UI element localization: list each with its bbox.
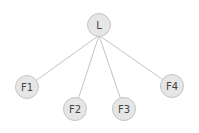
- edge-l-f1: [27, 35, 99, 87]
- node-f1-label: F1: [21, 82, 33, 93]
- node-f2: F2: [64, 98, 87, 121]
- node-f1: F1: [16, 76, 39, 99]
- node-f4-label: F4: [166, 81, 178, 92]
- node-l-label: L: [96, 20, 102, 31]
- edge-l-f4: [99, 35, 172, 86]
- edges-group: [27, 35, 172, 109]
- node-f3: F3: [113, 98, 136, 121]
- node-l: L: [88, 14, 111, 37]
- tree-diagram: L F1 F2 F3 F4: [0, 0, 199, 133]
- node-f2-label: F2: [69, 104, 81, 115]
- node-f4: F4: [161, 75, 184, 98]
- nodes-group: L F1 F2 F3 F4: [16, 14, 184, 121]
- node-f3-label: F3: [118, 104, 130, 115]
